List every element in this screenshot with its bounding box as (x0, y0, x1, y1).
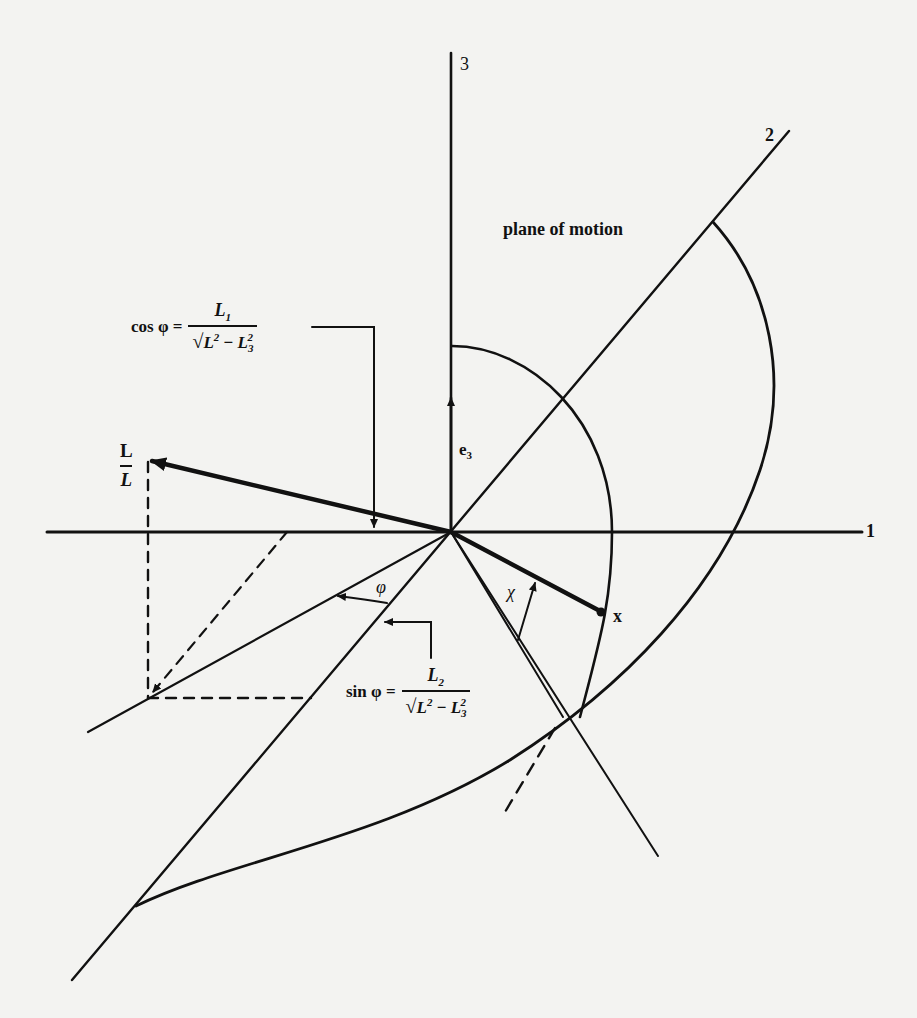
axis-2 (72, 131, 789, 980)
diagram-canvas: 3 2 1 plane of motion e3 L L φ χ x cos φ… (0, 0, 917, 1018)
phi-arc (338, 596, 387, 603)
chi-arrow (518, 583, 535, 640)
lower-right-line (451, 532, 658, 856)
chi-label: χ (507, 583, 515, 601)
plane-of-motion-label: plane of motion (503, 220, 623, 238)
phi-label: φ (376, 578, 386, 596)
axis-3-label: 3 (460, 55, 469, 73)
cos-leader (312, 327, 374, 527)
sin-leader (385, 622, 431, 658)
L-vector (152, 461, 451, 532)
diagram-lines (0, 0, 917, 1018)
cos-phi-formula: cos φ = L1 √L2 − L32 (131, 300, 257, 354)
axis-2-label: 2 (765, 126, 774, 144)
axis-1-label: 1 (866, 522, 875, 540)
e3-label: e3 (459, 441, 472, 461)
x-label: x (613, 607, 622, 625)
L-over-L-label: L L (120, 440, 133, 491)
sin-phi-formula: sin φ = L2 √L2 − L32 (346, 665, 470, 719)
x-vector (451, 532, 600, 611)
dashed-lower (505, 728, 555, 812)
dashed-diagonal (153, 532, 287, 692)
